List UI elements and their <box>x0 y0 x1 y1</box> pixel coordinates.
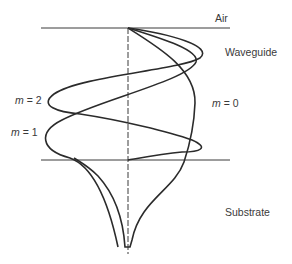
region-label-air: Air <box>215 13 228 24</box>
mode-m0-curve <box>74 28 195 247</box>
mode-symbol: m <box>15 94 24 106</box>
mode-value: = 2 <box>24 94 42 106</box>
mode-label-m2: m = 2 <box>15 95 42 106</box>
mode-symbol: m <box>11 126 20 138</box>
region-label-substrate: Substrate <box>225 207 270 218</box>
mode-label-m1: m = 1 <box>11 127 38 138</box>
mode-value: = 0 <box>221 97 239 109</box>
mode-symbol: m <box>212 97 221 109</box>
mode-m2-curve <box>48 28 202 160</box>
waveguide-mode-diagram: Air Waveguide Substrate m = 0 m = 2 m = … <box>0 0 292 264</box>
mode-value: = 1 <box>20 126 38 138</box>
mode-label-m0: m = 0 <box>212 98 239 109</box>
region-label-waveguide: Waveguide <box>225 47 277 58</box>
mode-profiles-canvas <box>0 0 292 264</box>
